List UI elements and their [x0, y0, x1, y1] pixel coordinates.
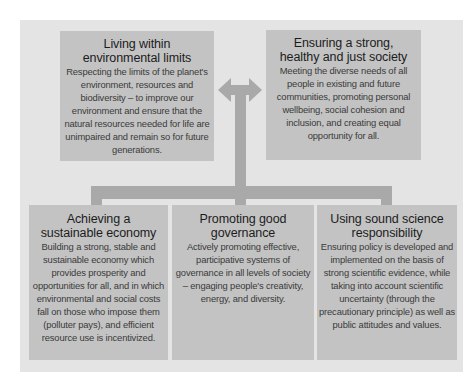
title-line: Using sound science [318, 212, 456, 226]
title-line: governance [173, 226, 313, 240]
box-description: Meeting the diverse needs of all people … [269, 64, 418, 142]
left-drop [91, 186, 102, 205]
title-line: healthy and just society [269, 50, 418, 64]
box-just-society: Ensuring a strong, healthy and just soci… [266, 30, 421, 160]
title-line: responsibility [318, 226, 456, 240]
title-line: Ensuring a strong, [269, 36, 418, 50]
box-description: Ensuring policy is developed and impleme… [318, 240, 456, 331]
box-description: Respecting the limits of the planet's en… [63, 65, 211, 156]
box-environmental-limits: Living within environmental limits Respe… [60, 31, 214, 161]
title-line: sustainable economy [30, 226, 167, 240]
box-sound-science: Using sound science responsibility Ensur… [317, 205, 457, 360]
box-title: Promoting good governance [173, 212, 313, 240]
title-line: Living within [63, 37, 211, 51]
title-line: environmental limits [63, 51, 211, 65]
box-title: Achieving a sustainable economy [30, 212, 167, 240]
box-description: Building a strong, stable and sustainabl… [30, 240, 167, 344]
box-sustainable-economy: Achieving a sustainable economy Building… [29, 205, 168, 360]
box-good-governance: Promoting good governance Actively promo… [172, 205, 314, 360]
box-title: Ensuring a strong, healthy and just soci… [269, 36, 418, 64]
box-title: Living within environmental limits [63, 37, 211, 65]
horizontal-bar [91, 186, 391, 199]
title-line: Achieving a [30, 212, 167, 226]
box-description: Actively promoting effective, participat… [173, 240, 313, 305]
title-line: Promoting good [173, 212, 313, 226]
right-drop [381, 186, 392, 205]
box-title: Using sound science responsibility [318, 212, 456, 240]
